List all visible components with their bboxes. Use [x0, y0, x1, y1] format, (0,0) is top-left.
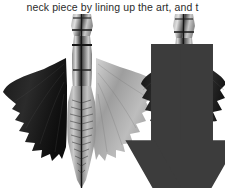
figure-container [0, 14, 225, 188]
down-arrow-icon [55, 44, 65, 63]
down-arrow-icon [84, 44, 94, 63]
page-root: neck piece by lining up the art, and t [0, 0, 225, 188]
caption-text: neck piece by lining up the art, and t [0, 0, 225, 14]
